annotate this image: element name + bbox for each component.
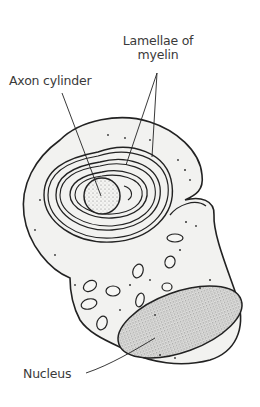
nucleus-label: Nucleus <box>23 367 71 381</box>
lamellae-label-line1: Lamellae of <box>112 34 204 48</box>
axon-cylinder <box>84 178 120 214</box>
diagram-canvas: Lamellae of myelin Axon cylinder Nucleus <box>0 0 260 407</box>
axon-cylinder-label: Axon cylinder <box>9 74 91 88</box>
lamellae-label-line2: myelin <box>112 48 204 62</box>
lamellae-label: Lamellae of myelin <box>112 34 204 62</box>
